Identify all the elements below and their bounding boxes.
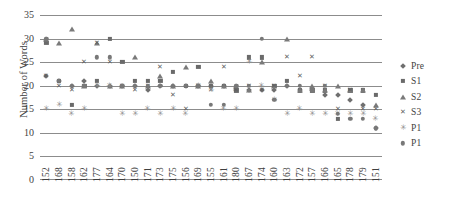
- grid-line: [40, 156, 382, 157]
- data-point-cross: ✕: [297, 73, 303, 79]
- legend-item-label: S1: [411, 76, 421, 86]
- x-axis-tick-label: 178: [345, 167, 355, 182]
- y-axis-tick-label: 30: [24, 34, 34, 44]
- data-point-square: [196, 65, 200, 69]
- data-point-star: ✳: [56, 102, 62, 108]
- legend-item-5[interactable]: P1: [398, 136, 456, 152]
- y-axis-tick-labels: 35302520151050: [0, 0, 38, 220]
- x-axis-tick-label: 170: [117, 167, 127, 182]
- x-axis-tick-label: 177: [92, 167, 102, 182]
- data-point-cross: ✕: [94, 40, 100, 46]
- y-axis-tick-label: 15: [24, 104, 34, 114]
- data-point-circle: [259, 36, 263, 40]
- x-axis-tick-label: 180: [231, 167, 241, 182]
- data-point-square: [120, 60, 124, 64]
- data-point-cross: ✕: [56, 83, 62, 89]
- data-point-star: ✳: [183, 111, 189, 117]
- data-point-star: ✳: [297, 106, 303, 112]
- x-axis-tick-label: 173: [155, 167, 165, 182]
- data-point-square: [133, 79, 137, 83]
- data-point-star: ✳: [322, 111, 328, 117]
- data-point-cross: ✕: [132, 87, 138, 93]
- x-axis-tick-label: 160: [269, 167, 279, 182]
- x-axis-tick-label: 165: [333, 167, 343, 182]
- data-point-diamond: [335, 92, 341, 98]
- data-point-square: [285, 79, 289, 83]
- y-axis-tick-label: 35: [24, 10, 34, 20]
- legend-item-label: P1: [411, 123, 421, 133]
- data-point-circle: [361, 117, 365, 121]
- data-point-cross: ✕: [271, 83, 277, 89]
- data-point-triangle: [221, 83, 227, 88]
- legend-item-2[interactable]: S2: [398, 89, 456, 105]
- x-axis-tick-label: 158: [67, 167, 77, 182]
- data-point-square: [44, 41, 48, 45]
- square-marker-icon: [398, 76, 408, 86]
- star-marker-icon: ✳: [398, 123, 408, 133]
- data-point-star: ✳: [132, 111, 138, 117]
- triangle-marker-icon: [398, 92, 408, 102]
- x-axis-tick-label: 152: [41, 167, 51, 182]
- data-point-star: ✳: [119, 111, 125, 117]
- y-axis-tick-label: 10: [24, 128, 34, 138]
- x-axis-tick-label: 161: [219, 167, 229, 182]
- data-point-cross: ✕: [157, 64, 163, 70]
- scatter-chart: Number of Words 35302520151050 ✕✕✕✕✕✕✕✕✕…: [0, 0, 456, 220]
- data-point-star: ✳: [309, 111, 315, 117]
- data-point-star: ✳: [107, 83, 113, 89]
- legend-item-4[interactable]: ✳P1: [398, 120, 456, 136]
- cross-marker-icon: ✕: [398, 107, 408, 117]
- data-point-diamond: [347, 97, 353, 103]
- data-point-triangle: [132, 55, 138, 60]
- data-point-square: [171, 69, 175, 73]
- data-point-star: ✳: [94, 83, 100, 89]
- data-point-circle: [158, 84, 162, 88]
- data-point-cross: ✕: [43, 73, 49, 79]
- data-point-cross: ✕: [347, 87, 353, 93]
- x-axis-tick-label: 157: [307, 167, 317, 182]
- x-axis-tick-label: 163: [282, 167, 292, 182]
- x-axis-tick-label: 164: [105, 167, 115, 182]
- data-point-square: [108, 36, 112, 40]
- data-point-star: ✳: [233, 106, 239, 112]
- data-point-triangle: [157, 74, 163, 79]
- data-point-star: ✳: [69, 111, 75, 117]
- x-axis-tick-label: 174: [257, 167, 267, 182]
- plot-area: ✕✕✕✕✕✕✕✕✕✕✕✕✕✕✕✕✕✕✕✕✕✕✕✕✕✕✕✳✳✳✳✳✳✳✳✳✳✳✳✳…: [40, 15, 382, 180]
- legend-item-1[interactable]: S1: [398, 74, 456, 90]
- legend-item-3[interactable]: ✕S3: [398, 105, 456, 121]
- data-point-star: ✳: [170, 106, 176, 112]
- data-point-triangle: [335, 83, 341, 88]
- diamond-marker-icon: [398, 61, 408, 71]
- data-point-triangle: [284, 36, 290, 41]
- legend-item-label: Pre: [411, 61, 424, 71]
- data-point-triangle: [56, 41, 62, 46]
- y-axis-tick-label: 25: [24, 57, 34, 67]
- data-point-star: ✳: [259, 83, 265, 89]
- data-point-star: ✳: [284, 111, 290, 117]
- data-point-star: ✳: [43, 106, 49, 112]
- data-point-star: ✳: [81, 106, 87, 112]
- x-axis-tick-label: 162: [79, 167, 89, 182]
- legend-item-label: S2: [411, 92, 421, 102]
- data-point-triangle: [69, 27, 75, 32]
- data-point-star: ✳: [145, 106, 151, 112]
- data-point-star: ✳: [157, 111, 163, 117]
- x-axis-tick-labels: 1521681581621771641701501711731751561691…: [40, 182, 382, 220]
- y-axis-tick-label: 5: [29, 151, 34, 161]
- x-axis-tick-label: 179: [358, 167, 368, 182]
- x-axis-tick-label: 155: [206, 167, 216, 182]
- data-point-cross: ✕: [309, 54, 315, 60]
- data-point-cross: ✕: [221, 64, 227, 70]
- x-axis-tick-label: 150: [130, 167, 140, 182]
- data-point-star: ✳: [246, 59, 252, 65]
- grid-line: [40, 109, 382, 110]
- data-point-square: [158, 79, 162, 83]
- data-point-circle: [373, 126, 377, 130]
- legend-item-label: P1: [411, 138, 421, 148]
- data-point-star: ✳: [373, 116, 379, 122]
- legend-item-0[interactable]: Pre: [398, 58, 456, 74]
- chart-legend: PreS1S2✕S3✳P1P1: [398, 58, 456, 151]
- x-axis-tick-label: 167: [244, 167, 254, 182]
- data-point-cross: ✕: [170, 92, 176, 98]
